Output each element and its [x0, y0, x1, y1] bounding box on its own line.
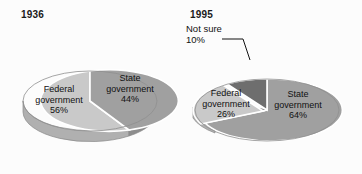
- pie-chart-1995: [0, 0, 362, 174]
- callout-label-not-sure-1995: Not sure 10%: [186, 23, 222, 45]
- figure-root: 1936 Federal government 56% State govern…: [0, 0, 362, 174]
- callout-label-line1: Not sure: [186, 23, 222, 34]
- callout-leader-line-not-sure: [222, 39, 250, 60]
- callout-label-value: 10%: [186, 34, 222, 45]
